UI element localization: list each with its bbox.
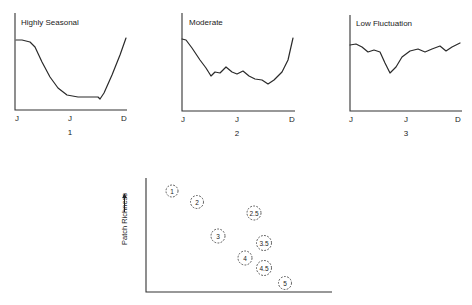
panel-2-tick-end: D [289,115,295,124]
scatter-point-label: 3 [216,233,220,240]
scatter-point-label: 4.5 [259,265,268,272]
figure-canvas: Highly Seasonal J J D 1 Moderate J J D 2… [0,0,472,305]
scatter-point-label: 5 [283,280,287,287]
scatter-point-label: 2.5 [249,210,258,217]
scatter-point: 4 [238,251,252,265]
panel-1-tick-start: J [15,114,19,123]
scatter-point-label: 1 [170,188,174,195]
panel-3-title: Low Fluctuation [356,19,412,28]
scatter-axes [146,178,332,292]
panel-3-number: 3 [404,129,409,138]
panel-3-tick-end: D [455,115,461,124]
panel-2-axes [182,13,295,111]
panel-1-title: Highly Seasonal [21,18,79,27]
panel-3-axes [350,15,462,111]
panel-3-tick-mid: J [404,115,408,124]
scatter-point-label: 2 [195,199,199,206]
scatter-point-label: 4 [243,255,247,262]
panel-2-tick-start: J [181,115,185,124]
scatter-point: 3 [211,229,225,243]
panel-2-number: 2 [235,129,240,138]
scatter-point: 3.5 [257,236,272,251]
scatter-point: 5 [279,277,292,290]
panel-2-curve [182,38,293,84]
scatter-point: 2 [191,196,204,209]
panel-moderate: Moderate J J D 2 [181,13,295,138]
panel-1-tick-end: D [121,114,127,123]
panel-1-number: 1 [68,128,73,137]
panel-low-fluctuation: Low Fluctuation J J D 3 [349,15,462,138]
panel-2-tick-mid: J [235,115,239,124]
panel-highly-seasonal: Highly Seasonal J J D 1 [15,13,127,137]
scatter-point: 4.5 [257,261,272,276]
panel-1-tick-mid: J [68,114,72,123]
patch-richness-scatter: Patch Richness 1 2 2.5 3 3.5 4 [120,178,332,292]
scatter-point-label: 3.5 [259,240,268,247]
panel-3-curve [350,43,460,73]
scatter-point: 2.5 [247,206,261,220]
panel-3-tick-start: J [349,115,353,124]
panel-2-title: Moderate [189,18,223,27]
panel-1-curve [16,38,126,99]
scatter-point: 1 [166,185,178,197]
